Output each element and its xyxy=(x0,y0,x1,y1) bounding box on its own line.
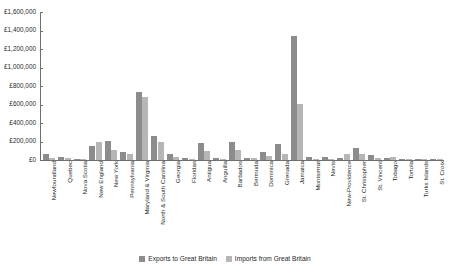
x-axis-tick-label: Turks Islands xyxy=(423,124,429,161)
x-axis-tick-label: Jamaica xyxy=(299,138,305,161)
bar-exports xyxy=(368,155,374,160)
bar-group xyxy=(167,12,180,160)
x-axis-tick-label: New England xyxy=(98,124,104,161)
bar-exports xyxy=(415,159,421,160)
y-axis-tick-mark xyxy=(40,86,43,87)
legend-label-exports: Exports to Great Britain xyxy=(148,256,217,263)
bar-group xyxy=(399,12,412,160)
x-axis-tick-label: Floridas xyxy=(191,139,197,161)
y-axis-tick-mark xyxy=(40,105,43,106)
y-axis-tick-label: £400,000 xyxy=(9,120,36,126)
x-axis-tick-label: Nevis xyxy=(330,146,336,161)
y-axis: £1,600,000£1,400,000£1,200,000£1,000,000… xyxy=(0,0,40,275)
chart-legend: Exports to Great Britain Imports from Gr… xyxy=(0,256,450,263)
bar-exports xyxy=(322,157,328,161)
y-axis-tick-label: £1,200,000 xyxy=(4,46,36,52)
bar-exports xyxy=(430,159,436,160)
y-axis-tick-label: £600,000 xyxy=(9,101,36,107)
bar-exports xyxy=(182,158,188,160)
bar-exports xyxy=(151,136,157,160)
bar-exports xyxy=(120,152,126,160)
x-axis-tick-label: Barbados xyxy=(237,135,243,162)
bar-exports xyxy=(74,159,80,160)
bar-exports xyxy=(198,143,204,160)
x-axis-tick-label: Dominica xyxy=(268,135,274,161)
y-axis-tick-label: £1,000,000 xyxy=(4,64,36,70)
x-axis-tick-label: North & South Carolina xyxy=(160,97,166,161)
legend-swatch-imports xyxy=(226,256,232,262)
bar-group xyxy=(58,12,71,160)
bar-exports xyxy=(275,144,281,160)
y-axis-tick-label: £200,000 xyxy=(9,138,36,144)
bar-exports xyxy=(291,36,297,160)
y-axis-tick-label: £1,600,000 xyxy=(4,9,36,15)
bar-exports xyxy=(306,157,312,160)
legend-label-imports: Imports from Great Britain xyxy=(235,256,311,263)
x-axis-tick-label: Nova Scotia xyxy=(82,128,88,161)
x-axis-tick-label: Anguilla xyxy=(222,139,228,161)
x-axis-tick-label: Bermuda xyxy=(253,136,259,161)
bar-exports xyxy=(43,154,49,160)
legend-item-imports: Imports from Great Britain xyxy=(226,256,311,263)
x-axis-tick-label: New York xyxy=(113,135,119,161)
bar-exports xyxy=(213,158,219,160)
x-axis-tick-label: St. Croix xyxy=(439,137,445,161)
bar-chart: £1,600,000£1,400,000£1,200,000£1,000,000… xyxy=(0,0,450,275)
bar-exports xyxy=(229,142,235,160)
bar-group xyxy=(322,12,335,160)
bar-exports xyxy=(58,157,64,160)
x-axis-tick-label: Quebec xyxy=(67,139,73,161)
y-axis-tick-label: £0 xyxy=(29,157,36,163)
x-axis-tick-label: Georgia xyxy=(175,139,181,161)
bar-exports xyxy=(353,148,359,160)
y-axis-tick-mark xyxy=(40,68,43,69)
x-axis-tick-label: Grenada xyxy=(284,137,290,161)
bar-exports xyxy=(337,158,343,160)
bar-group xyxy=(384,12,397,160)
x-axis-tick-label: Newfoundland xyxy=(51,121,57,161)
bar-group xyxy=(198,12,211,160)
y-axis-tick-mark xyxy=(40,31,43,32)
x-axis-tick-label: New-Providence xyxy=(346,116,352,161)
bar-exports xyxy=(89,146,95,160)
bar-group xyxy=(213,12,226,160)
y-axis-tick-mark xyxy=(40,49,43,50)
legend-swatch-exports xyxy=(139,256,145,262)
x-axis-tick-label: Maryland & Virginia xyxy=(144,107,150,161)
bar-exports xyxy=(167,154,173,160)
bar-exports xyxy=(260,152,266,160)
bar-exports xyxy=(399,159,405,160)
x-axis-tick-label: Antigua xyxy=(206,140,212,161)
bar-exports xyxy=(244,158,250,160)
x-axis-tick-label: Pennsylvania xyxy=(129,124,135,161)
x-axis-tick-label: St. Vincent xyxy=(377,131,383,161)
bar-exports xyxy=(136,92,142,160)
bar-exports xyxy=(105,141,111,160)
x-axis-tick-label: Montserrat xyxy=(315,131,321,161)
x-axis-tick-label: St. Christopher xyxy=(361,120,367,161)
bar-exports xyxy=(384,158,390,160)
legend-item-exports: Exports to Great Britain xyxy=(139,256,217,263)
x-axis-tick-label: Tobago xyxy=(392,141,398,161)
y-axis-tick-label: £800,000 xyxy=(9,83,36,89)
y-axis-tick-mark xyxy=(40,123,43,124)
y-axis-tick-mark xyxy=(40,160,43,161)
bar-group xyxy=(182,12,195,160)
x-axis: NewfoundlandQuebecNova ScotiaNew England… xyxy=(41,161,444,249)
y-axis-tick-mark xyxy=(40,142,43,143)
y-axis-tick-label: £1,400,000 xyxy=(4,27,36,33)
y-axis-tick-mark xyxy=(40,12,43,13)
x-axis-tick-label: Tortola xyxy=(408,142,414,161)
